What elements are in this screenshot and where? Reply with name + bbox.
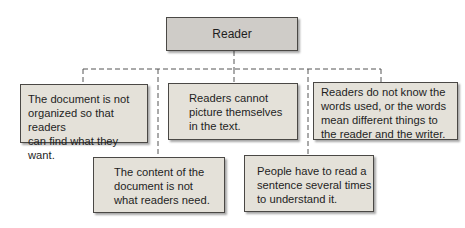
- node-unknown-words: Readers do not know the words used, or t…: [313, 82, 458, 140]
- node-label: Readers cannot picture themselves in the…: [189, 91, 282, 133]
- node-not-organized: The document is not organized so that re…: [20, 84, 148, 143]
- node-label: The document is not organized so that re…: [28, 92, 147, 162]
- node-label: Reader: [167, 27, 297, 41]
- node-label: Readers do not know the words used, or t…: [321, 85, 446, 141]
- node-label: The content of the document is not what …: [114, 165, 210, 207]
- node-reader: Reader: [166, 17, 298, 51]
- node-label: People have to read a sentence several t…: [257, 164, 371, 206]
- node-cannot-picture: Readers cannot picture themselves in the…: [168, 83, 298, 140]
- node-read-several-times: People have to read a sentence several t…: [244, 155, 374, 212]
- node-wrong-content: The content of the document is not what …: [93, 157, 225, 213]
